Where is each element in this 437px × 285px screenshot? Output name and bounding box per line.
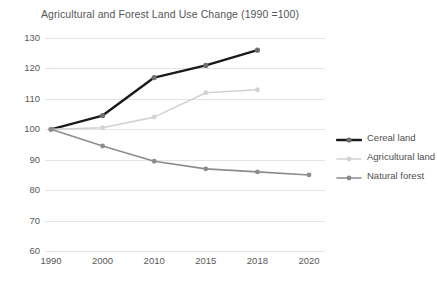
x-tick-label: 2015 [184,255,228,266]
legend-label: Natural forest [367,170,424,181]
y-tick-label: 110 [10,94,40,104]
data-point [203,90,208,95]
series-line [51,90,257,130]
legend-item[interactable]: Agricultural land [336,147,437,166]
x-axis: 199020002010201520182020 [45,255,325,271]
x-tick-label: 2018 [235,255,279,266]
chart-container: Agricultural and Forest Land Use Change … [0,0,437,285]
y-tick-label: 90 [10,155,40,165]
data-point [100,113,105,118]
chart-title: Agricultural and Forest Land Use Change … [0,8,340,20]
x-tick-label: 2010 [132,255,176,266]
series-natural-forest [49,127,312,177]
data-point [152,115,157,120]
x-tick-label: 2020 [287,255,331,266]
data-point [203,63,208,68]
legend-item[interactable]: Cereal land [336,128,437,147]
legend-label: Agricultural land [367,151,435,162]
series-line [51,129,309,175]
chart-legend: Cereal landAgricultural landNatural fore… [336,128,437,185]
data-point [49,127,54,132]
legend-item[interactable]: Natural forest [336,166,437,185]
series-layer [45,38,325,251]
x-tick-label: 2000 [81,255,125,266]
data-point [100,144,105,149]
y-tick-label: 80 [10,185,40,195]
data-point [255,169,260,174]
plot-area [45,38,325,251]
legend-swatch-icon [336,170,362,182]
legend-swatch-icon [336,132,362,144]
y-tick-label: 70 [10,216,40,226]
data-point [152,75,157,80]
y-axis: 60708090100110120130 [8,38,40,251]
data-point [255,48,260,53]
legend-swatch-icon [336,151,362,163]
gridline [45,251,325,252]
data-point [307,173,312,178]
y-tick-label: 120 [10,63,40,73]
y-tick-label: 100 [10,124,40,134]
y-tick-label: 130 [10,33,40,43]
legend-label: Cereal land [367,132,416,143]
x-tick-label: 1990 [29,255,73,266]
data-point [203,166,208,171]
series-agricultural-land [49,87,260,131]
data-point [100,125,105,130]
data-point [255,87,260,92]
data-point [152,159,157,164]
